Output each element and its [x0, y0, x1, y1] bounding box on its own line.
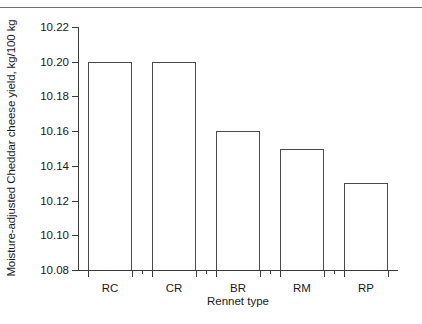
x-axis-line — [78, 270, 398, 271]
y-axis-tick-label: 10.18 — [40, 90, 69, 102]
y-axis-tick — [72, 235, 78, 236]
x-axis-tick — [344, 270, 345, 277]
x-axis-minor-tick — [142, 270, 143, 274]
y-axis-tick-label: 10.22 — [40, 21, 69, 33]
x-axis-tick — [260, 270, 261, 277]
x-axis-title: Rennet type — [78, 295, 398, 307]
y-axis-tick-label: 10.10 — [40, 229, 69, 241]
y-axis-tick — [72, 62, 78, 63]
x-axis-tick — [132, 270, 133, 277]
bar — [344, 183, 388, 270]
bar — [216, 131, 260, 270]
top-divider-rule — [0, 7, 422, 8]
y-axis-line — [78, 27, 79, 270]
bar — [88, 62, 132, 270]
x-axis-tick-label: BR — [230, 282, 246, 294]
y-axis-tick-label: 10.08 — [40, 264, 69, 276]
x-axis-tick-label: RM — [293, 282, 311, 294]
x-axis-tick — [88, 270, 89, 277]
x-axis-tick — [324, 270, 325, 277]
x-axis-tick — [196, 270, 197, 277]
x-axis-tick — [152, 270, 153, 277]
x-axis-minor-tick — [334, 270, 335, 274]
x-axis-tick — [216, 270, 217, 277]
x-axis-minor-tick — [270, 270, 271, 274]
x-axis-tick-label: CR — [166, 282, 183, 294]
y-axis-tick-label: 10.14 — [40, 160, 69, 172]
y-axis-tick — [72, 131, 78, 132]
x-axis-tick — [388, 270, 389, 277]
x-axis-tick-label: RC — [102, 282, 119, 294]
x-axis-tick-label: RP — [358, 282, 374, 294]
y-axis-tick — [72, 96, 78, 97]
y-axis-tick-label: 10.20 — [40, 56, 69, 68]
x-axis-minor-tick — [206, 270, 207, 274]
figure-container: Moisture-adjusted Cheddar cheese yield, … — [0, 0, 422, 324]
bar — [152, 62, 196, 270]
y-axis-tick — [72, 166, 78, 167]
bar — [280, 149, 324, 271]
y-axis-tick — [72, 27, 78, 28]
y-axis-tick — [72, 201, 78, 202]
plot-area: 10.2210.2010.1810.1610.1410.1210.1010.08… — [78, 27, 398, 270]
y-axis-title: Moisture-adjusted Cheddar cheese yield, … — [4, 8, 18, 288]
y-axis-tick-label: 10.12 — [40, 195, 69, 207]
y-axis-tick-label: 10.16 — [40, 125, 69, 137]
y-axis-tick — [72, 270, 78, 271]
x-axis-tick — [280, 270, 281, 277]
